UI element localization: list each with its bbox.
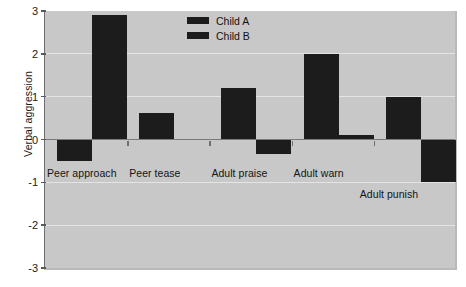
- category-label: Adult warn: [294, 167, 344, 179]
- y-axis-tick: [41, 53, 46, 55]
- x-axis-tick: [209, 141, 211, 146]
- y-axis-tick-label: 1: [32, 90, 38, 102]
- gridline: [45, 225, 455, 226]
- y-axis-tick: [41, 139, 46, 141]
- y-axis-tick: [41, 96, 46, 98]
- bar: [339, 135, 374, 139]
- bar: [386, 97, 421, 140]
- y-axis-tick-label: -2: [28, 219, 38, 231]
- y-axis-tick-label: 0: [32, 133, 38, 145]
- legend-swatch-icon: [187, 32, 209, 39]
- bar: [221, 88, 256, 139]
- category-label: Peer tease: [129, 167, 180, 179]
- x-axis-tick: [127, 141, 129, 146]
- y-axis-tick: [41, 182, 46, 184]
- bar: [304, 54, 339, 140]
- bar: [92, 15, 127, 139]
- legend-label: Child A: [216, 15, 249, 27]
- y-axis-tick: [41, 10, 46, 12]
- y-axis-tick-label: -1: [28, 176, 38, 188]
- plot-area: 3210-1-2-3 Peer approachPeer teaseAdult …: [44, 11, 455, 268]
- y-axis-tick-label: 2: [32, 48, 38, 60]
- legend-label: Child B: [216, 30, 250, 42]
- legend: Child A Child B: [187, 14, 250, 44]
- category-label: Adult punish: [360, 188, 418, 200]
- y-axis-tick-label: 3: [32, 5, 38, 17]
- gridline: [45, 182, 455, 183]
- bar: [139, 113, 174, 140]
- x-axis-tick: [292, 141, 294, 146]
- legend-swatch-icon: [187, 17, 209, 24]
- legend-item-child-a: Child A: [187, 14, 250, 27]
- legend-item-child-b: Child B: [187, 29, 250, 42]
- y-axis-tick: [41, 224, 46, 226]
- y-axis-tick-label: -3: [28, 262, 38, 274]
- x-axis-tick: [374, 141, 376, 146]
- bar: [256, 140, 291, 155]
- category-label: Peer approach: [47, 167, 117, 179]
- category-label: Adult praise: [211, 167, 267, 179]
- bar-chart: Verbal aggression 3210-1-2-3 Peer approa…: [0, 0, 466, 287]
- y-axis-tick: [41, 267, 46, 269]
- bar: [421, 140, 456, 183]
- bar: [57, 140, 92, 161]
